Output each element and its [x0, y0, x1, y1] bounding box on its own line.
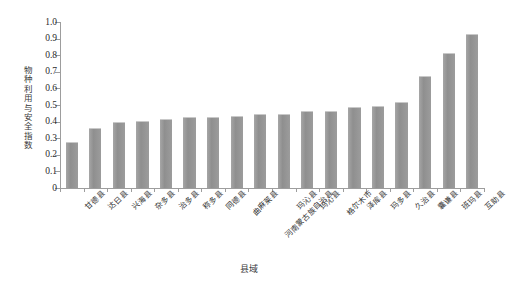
x-axis-tick-labels: 甘德县达日县兴海县杂多县治多县称多县同德县曲麻莱县河南蒙古族自治县玛沁县玛沁县格…	[60, 189, 484, 255]
y-axis-tick-label: 0.5	[45, 99, 57, 111]
y-axis-tick-label: 0.8	[45, 49, 57, 61]
x-axis-tick-label: 互助县	[484, 189, 507, 212]
x-axis-title: 县域	[0, 262, 498, 275]
x-axis-tick-label: 囊谦县	[437, 189, 460, 212]
bar	[348, 107, 360, 188]
bar	[301, 111, 313, 188]
y-axis-tick-label: 0.1	[45, 165, 57, 177]
y-axis-tick-label: 0.4	[45, 115, 57, 127]
x-axis-tick-label: 久治县	[414, 189, 437, 212]
bar	[395, 102, 407, 188]
bar	[231, 116, 243, 188]
y-axis-tick-label: 0.6	[45, 82, 57, 94]
y-axis-line	[60, 22, 61, 188]
y-axis-tick-label: 1.0	[45, 16, 57, 28]
bar	[325, 111, 337, 188]
plot-area: 1.00.90.80.70.60.50.40.30.20.10	[60, 22, 484, 188]
x-axis-tick-label: 甘德县	[84, 189, 107, 212]
y-axis-tick-label: 0.2	[45, 148, 57, 160]
y-axis-tick-label: 0.7	[45, 65, 57, 77]
bar	[207, 117, 219, 188]
x-axis-tick-label: 班玛县	[461, 189, 484, 212]
x-axis-tick-label: 兴海县	[131, 189, 154, 212]
bar	[113, 122, 125, 188]
x-axis-tick-label: 曲麻莱县	[251, 189, 280, 218]
x-axis-tick-mark	[484, 188, 485, 192]
y-axis-tick-label: 0.3	[45, 132, 57, 144]
x-axis-tick-label: 玛多县	[390, 189, 413, 212]
bar	[372, 106, 384, 188]
bar	[419, 76, 431, 188]
bar	[89, 128, 101, 188]
y-axis-tick-label: 0	[52, 182, 57, 194]
bar	[443, 53, 455, 188]
x-axis-tick-label: 称多县	[202, 189, 225, 212]
bar	[183, 117, 195, 188]
y-axis-title: 物种利用与安全指数	[18, 38, 34, 178]
x-axis-tick-label: 杂多县	[154, 189, 177, 212]
bar	[278, 114, 290, 188]
bar	[254, 114, 266, 188]
bar	[136, 121, 148, 188]
x-axis-tick-label: 达日县	[107, 189, 130, 212]
bar	[66, 142, 78, 188]
x-axis-tick-label: 治多县	[178, 189, 201, 212]
bar	[160, 119, 172, 188]
x-axis-tick-label: 同德县	[225, 189, 248, 212]
y-axis-tick-label: 0.9	[45, 32, 57, 44]
bar	[466, 34, 478, 188]
